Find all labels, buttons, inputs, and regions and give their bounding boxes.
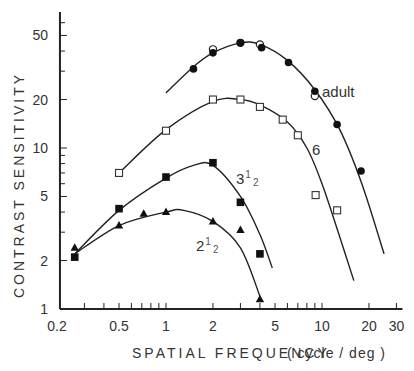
filled-circle-marker [237,39,245,47]
x-axis-unit: ( cycle / deg ) [287,345,386,361]
x-tick-label: 0.5 [109,318,129,334]
filled-square-marker [209,159,217,167]
filled-triangle-marker [256,295,264,303]
y-tick-label: 50 [32,27,48,43]
curve-adult [166,42,384,254]
x-tick-label: 10 [314,318,330,334]
filled-square-marker [256,250,264,258]
y-axis-title: CONTRAST SENSITIVITY [11,72,27,298]
open-square-marker [312,192,319,199]
filled-circle-marker [333,121,341,129]
x-tick-label: 2 [209,318,217,334]
x-tick-label: 5 [271,318,279,334]
series-labels: adult6312212 [196,83,355,255]
open-square-marker [334,207,341,214]
axes: 0.20.5125102030125102050 [32,12,404,334]
open-square-marker [163,127,170,134]
filled-circle-marker [357,167,365,175]
filled-circle-marker [258,44,266,52]
label-6-months: 6 [312,141,320,158]
y-tick-label: 5 [40,188,48,204]
label-3-5-months: 312 [236,169,259,188]
open-square-marker [209,96,216,103]
filled-circle-marker [285,59,293,67]
filled-square-marker [237,198,245,206]
x-tick-label: 30 [389,318,405,334]
label-adult: adult [322,83,355,100]
filled-circle-marker [209,49,217,57]
filled-circle-marker [311,87,319,95]
x-tick-label: 0.2 [47,318,67,334]
contrast-sensitivity-chart: 0.20.5125102030125102050 adult6312212 CO… [0,0,414,371]
x-tick-label: 1 [162,318,170,334]
open-square-marker [237,96,244,103]
filled-triangle-marker [209,217,217,225]
filled-square-marker [162,173,170,181]
filled-circle-marker [190,65,198,73]
x-tick-label: 20 [361,318,377,334]
filled-triangle-marker [71,243,79,251]
filled-square-marker [71,253,79,261]
y-tick-label: 2 [40,253,48,269]
open-square-marker [256,103,263,110]
y-tick-label: 1 [40,301,48,317]
filled-triangle-marker [236,225,244,233]
curve-6-months [119,98,354,280]
y-tick-label: 20 [32,92,48,108]
curve-2-5-months [75,210,260,297]
open-square-marker [116,169,123,176]
open-square-marker [294,132,301,139]
filled-square-marker [115,205,123,213]
y-tick-label: 10 [32,140,48,156]
filled-triangle-marker [140,209,148,217]
open-square-marker [279,116,286,123]
data-markers [71,39,365,302]
label-2-5-months: 212 [196,236,219,255]
